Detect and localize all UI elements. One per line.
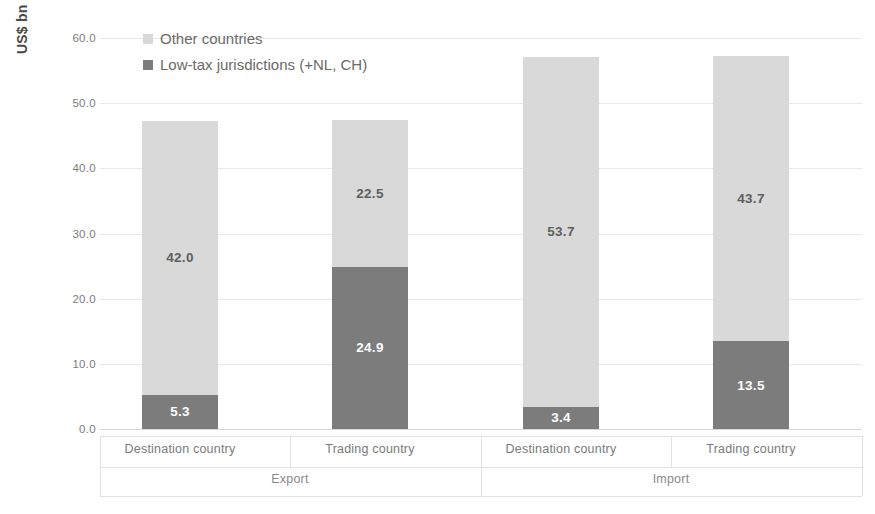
bar-export-destination[interactable]: 42.0 5.3 bbox=[142, 121, 218, 429]
plot-area: 42.0 5.3 22.5 24.9 53.7 3.4 bbox=[100, 38, 862, 429]
y-tick-20: 20.0 bbox=[50, 293, 96, 305]
bar-import-destination[interactable]: 53.7 3.4 bbox=[523, 57, 599, 429]
x-axis-category-labels: Destination country Trading country Dest… bbox=[100, 436, 862, 466]
axis-sep-right bbox=[862, 436, 863, 496]
stacked-bar-chart: US$ bn 60.0 50.0 40.0 30.0 20.0 10.0 0.0… bbox=[0, 0, 875, 514]
axis-divider-bottom bbox=[100, 496, 862, 497]
gridline-baseline bbox=[100, 429, 862, 430]
bar-import-trading[interactable]: 43.7 13.5 bbox=[713, 56, 789, 429]
bar-value-label: 5.3 bbox=[170, 404, 190, 419]
bar-segment-other-countries[interactable]: 53.7 bbox=[523, 57, 599, 407]
y-tick-30: 30.0 bbox=[50, 228, 96, 240]
bar-segment-other-countries[interactable]: 42.0 bbox=[142, 121, 218, 395]
y-tick-0: 0.0 bbox=[50, 423, 96, 435]
y-tick-50: 50.0 bbox=[50, 97, 96, 109]
legend-label: Other countries bbox=[160, 30, 263, 47]
group-label-import: Import bbox=[481, 472, 861, 486]
bar-value-label: 13.5 bbox=[737, 378, 764, 393]
category-label-export-trading: Trading country bbox=[275, 442, 465, 456]
legend-swatch-icon bbox=[143, 34, 153, 44]
bar-value-label: 43.7 bbox=[737, 191, 764, 206]
category-label-import-trading: Trading country bbox=[656, 442, 846, 456]
bar-value-label: 3.4 bbox=[551, 410, 571, 425]
bar-segment-low-tax[interactable]: 5.3 bbox=[142, 395, 218, 430]
category-label-import-destination: Destination country bbox=[466, 442, 656, 456]
y-tick-10: 10.0 bbox=[50, 358, 96, 370]
category-label-export-destination: Destination country bbox=[85, 442, 275, 456]
y-tick-40: 40.0 bbox=[50, 162, 96, 174]
bar-value-label: 22.5 bbox=[356, 186, 383, 201]
legend-label: Low-tax jurisdictions (+NL, CH) bbox=[160, 56, 367, 73]
bar-export-trading[interactable]: 22.5 24.9 bbox=[332, 120, 408, 429]
legend: Other countries Low-tax jurisdictions (+… bbox=[143, 30, 367, 82]
x-axis-group-labels: Export Import bbox=[100, 468, 862, 496]
y-axis-title: US$ bn bbox=[14, 0, 30, 54]
y-axis-tick-labels: 60.0 50.0 40.0 30.0 20.0 10.0 0.0 bbox=[44, 38, 96, 429]
bar-segment-other-countries[interactable]: 22.5 bbox=[332, 120, 408, 267]
group-label-export: Export bbox=[100, 472, 480, 486]
bar-segment-low-tax[interactable]: 3.4 bbox=[523, 407, 599, 429]
bar-segment-low-tax[interactable]: 13.5 bbox=[713, 341, 789, 429]
bar-value-label: 24.9 bbox=[356, 340, 383, 355]
bar-value-label: 42.0 bbox=[166, 250, 193, 265]
legend-swatch-icon bbox=[143, 60, 153, 70]
legend-item-other-countries[interactable]: Other countries bbox=[143, 30, 367, 47]
bar-segment-low-tax[interactable]: 24.9 bbox=[332, 267, 408, 429]
bar-segment-other-countries[interactable]: 43.7 bbox=[713, 56, 789, 341]
y-tick-60: 60.0 bbox=[50, 32, 96, 44]
legend-item-low-tax-jurisdictions[interactable]: Low-tax jurisdictions (+NL, CH) bbox=[143, 56, 367, 73]
bar-value-label: 53.7 bbox=[547, 224, 574, 239]
